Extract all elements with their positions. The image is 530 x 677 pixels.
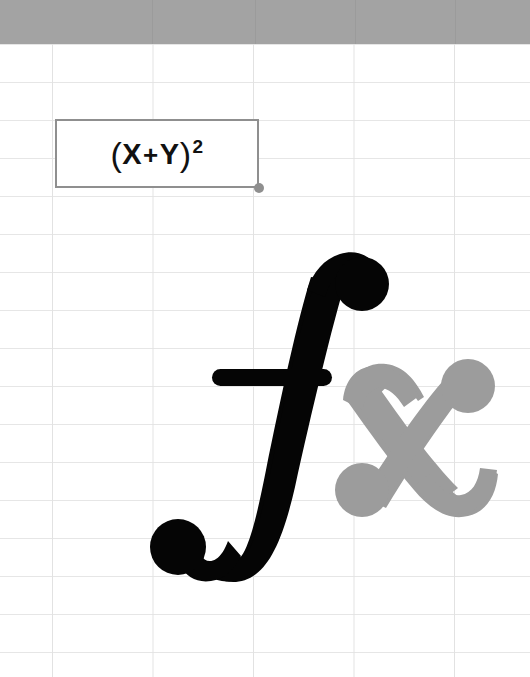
header-separator	[455, 0, 456, 44]
open-paren: (	[110, 135, 122, 173]
exponent: 2	[192, 136, 203, 157]
header-separator	[152, 0, 153, 44]
fill-handle[interactable]	[254, 183, 264, 193]
spreadsheet-grid	[0, 0, 530, 677]
header-separator	[255, 0, 256, 44]
operator: +	[142, 140, 160, 170]
operand-right: Y	[160, 138, 180, 170]
column-header-band	[0, 0, 530, 44]
header-separator	[355, 0, 356, 44]
selected-cell[interactable]: (X+Y)2	[55, 119, 259, 188]
app-canvas: (X+Y)2	[0, 0, 530, 677]
formula-text: (X+Y)2	[110, 137, 203, 171]
close-paren: )	[180, 135, 192, 173]
operand-left: X	[122, 138, 142, 170]
